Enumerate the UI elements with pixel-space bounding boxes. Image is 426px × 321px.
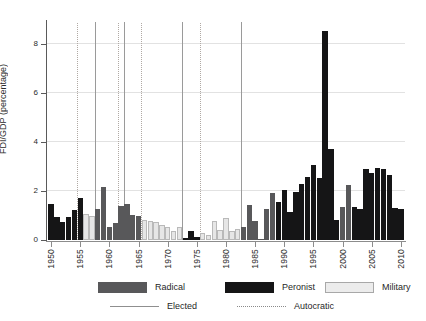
bar-1999 [334,220,339,240]
x-tick-label-2010: 2010 [396,249,406,269]
bar-1965 [136,216,141,240]
bar-1988 [270,193,275,240]
plot-inner [47,22,405,240]
bar-1969 [159,225,164,240]
legend-swatch-peronist [225,282,274,293]
y-tick-label-6: 6 [0,89,38,97]
bar-2001 [346,185,351,240]
bar-1964 [130,215,135,240]
bar-1982 [235,229,240,240]
bar-1956 [83,214,88,240]
x-tick-mark-1965 [139,242,140,247]
legend-label-peronist: Peronist [282,282,315,293]
bar-1975 [194,237,199,240]
x-tick-label-1975: 1975 [192,249,202,269]
bar-1987 [264,209,269,240]
x-tick-label-1960: 1960 [104,249,114,269]
bar-1955 [78,198,83,240]
bar-1967 [148,221,153,240]
y-tick-label-2: 2 [0,187,38,195]
bar-1953 [66,217,71,240]
bar-2010 [398,209,403,240]
gridline-y-8 [47,43,405,44]
x-tick-mark-1980 [226,242,227,247]
bar-1998 [328,149,333,240]
bar-1959 [101,187,106,240]
bar-1980 [223,218,228,240]
x-tick-label-2000: 2000 [338,249,348,269]
x-tick-mark-1985 [255,242,256,247]
bar-1951 [54,217,59,240]
gridline-y-6 [47,92,405,93]
legend-label-radical: Radical [155,282,185,293]
bar-2003 [357,209,362,240]
bar-1997 [322,31,327,240]
bar-1991 [287,212,292,240]
legend-row-parties: RadicalPeronistMilitary [0,281,426,294]
bar-1972 [177,227,182,240]
bar-1978 [212,221,217,240]
bar-1992 [293,192,298,240]
x-tick-label-1980: 1980 [221,249,231,269]
bar-1954 [72,210,77,240]
bar-1952 [60,222,65,240]
regime-line-elected-1983 [241,22,242,240]
bar-1958 [95,209,100,240]
bar-1985 [252,221,257,240]
x-tick-label-1970: 1970 [163,249,173,269]
bar-1960 [107,227,112,240]
x-tick-mark-1960 [109,242,110,247]
bar-1966 [142,220,147,240]
legend-entry-elected: Elected [110,300,197,312]
bar-2009 [392,208,397,240]
bar-1990 [282,190,287,240]
bar-1950 [48,204,53,240]
regime-line-elected-1958 [95,22,96,240]
bar-2008 [387,175,392,240]
x-tick-mark-2000 [343,242,344,247]
bar-2004 [363,169,368,240]
bar-1981 [229,231,234,240]
bar-2007 [381,169,386,240]
bar-1996 [317,178,322,240]
legend-lineswatch-autocratic [237,306,286,307]
y-tick-label-8: 8 [0,40,38,48]
bar-1984 [247,205,252,240]
regime-line-autocratic-1966 [141,22,142,240]
x-tick-label-1950: 1950 [46,249,56,269]
legend-label-military: Military [382,282,411,293]
x-tick-mark-2005 [372,242,373,247]
bar-1961 [113,223,118,240]
legend-entry-radical: Radical [98,281,185,294]
legend-row-regimes: ElectedAutocratic [0,300,426,312]
legend-entry-autocratic: Autocratic [237,300,334,312]
x-tick-mark-1970 [168,242,169,247]
plot-area [47,22,405,240]
fdi-gdp-bar-chart-figure: FDI/GDP (percentage) 02468 1950195519601… [0,0,426,321]
bar-1970 [165,227,170,240]
legend-entry-peronist: Peronist [225,281,315,294]
x-tick-mark-1975 [197,242,198,247]
gridline-y-4 [47,141,405,142]
bar-1976 [200,233,205,240]
bar-1957 [89,216,94,240]
x-tick-label-1955: 1955 [75,249,85,269]
bar-1994 [305,177,310,240]
bar-1971 [171,231,176,240]
bar-1973 [183,238,188,240]
y-tick-label-0: 0 [0,236,38,244]
legend-label-elected: Elected [167,301,197,312]
x-tick-label-1995: 1995 [308,249,318,269]
x-tick-label-1990: 1990 [279,249,289,269]
bar-1962 [118,206,123,240]
x-tick-mark-1990 [284,242,285,247]
x-tick-label-1985: 1985 [250,249,260,269]
legend-swatch-radical [98,282,147,293]
x-tick-mark-1955 [80,242,81,247]
bar-2005 [369,173,374,240]
legend-lineswatch-elected [110,306,159,307]
bar-1979 [217,230,222,240]
x-tick-mark-1995 [313,242,314,247]
chart-legend: RadicalPeronistMilitary ElectedAutocrati… [0,281,426,321]
x-tick-label-2005: 2005 [367,249,377,269]
